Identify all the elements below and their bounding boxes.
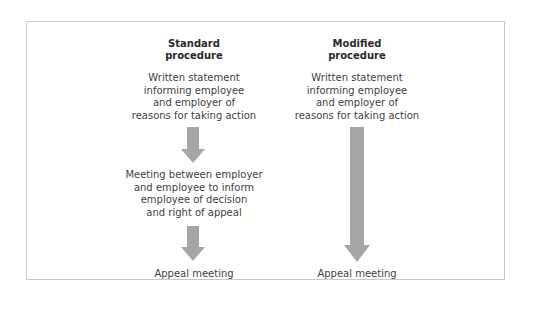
standard-heading-line1: Standard	[109, 38, 279, 51]
standard-heading-line2: procedure	[109, 50, 279, 63]
modified-step-written-statement: Written statement informing employee and…	[272, 72, 442, 122]
standard-step-appeal-meeting: Appeal meeting	[109, 268, 279, 281]
down-arrow-icon	[181, 226, 205, 261]
modified-heading-line2: procedure	[272, 50, 442, 63]
long-down-arrow-icon	[344, 127, 370, 262]
standard-step-meeting: Meeting between employer and employee to…	[109, 169, 279, 219]
modified-step-appeal-meeting: Appeal meeting	[272, 268, 442, 281]
standard-step-written-statement: Written statement informing employee and…	[109, 72, 279, 122]
modified-heading-line1: Modified	[272, 38, 442, 51]
down-arrow-icon	[181, 127, 205, 163]
